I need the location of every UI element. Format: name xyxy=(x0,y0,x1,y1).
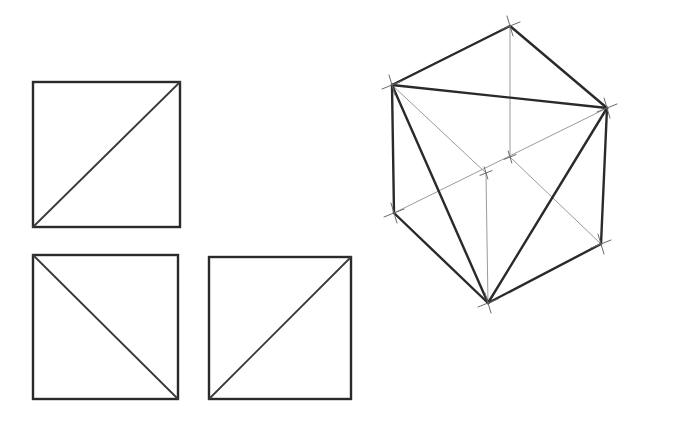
edge-right_top-right_bottom xyxy=(601,108,607,244)
edge-left_top-bottom xyxy=(392,85,488,303)
diagonal-line xyxy=(209,257,351,399)
edge-top-right_top xyxy=(510,26,607,108)
orthographic-views xyxy=(33,82,351,399)
isometric-cube xyxy=(382,16,617,313)
diagonal-line xyxy=(33,255,178,399)
side-view xyxy=(209,257,351,399)
hidden-edge-left_top-front_center xyxy=(392,85,486,173)
edge-left_bottom-bottom xyxy=(394,213,488,303)
edge-left_top-top xyxy=(392,26,510,85)
diagonal-line xyxy=(33,82,180,227)
edge-left_top-right_top xyxy=(392,85,607,108)
sketch-canvas xyxy=(0,0,673,427)
hidden-edge-front_center-bottom xyxy=(486,173,488,303)
edge-left_top-left_bottom xyxy=(392,85,394,213)
front-view xyxy=(33,255,178,399)
top-view xyxy=(33,82,180,227)
hidden-edge-hidden_back-right_bottom xyxy=(510,157,601,244)
